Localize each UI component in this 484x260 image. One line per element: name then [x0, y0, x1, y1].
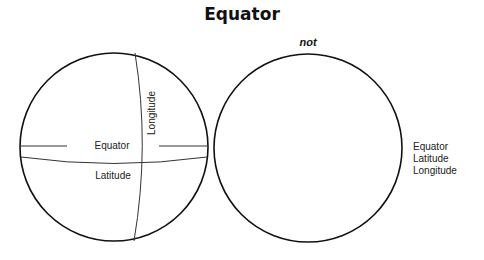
- word-bank-item-longitude: Longitude: [413, 165, 457, 177]
- longitude-label: Longitude: [146, 91, 157, 135]
- latitude-label: Latitude: [95, 170, 131, 181]
- word-bank-item-latitude: Latitude: [413, 153, 457, 165]
- longitude-curve: [134, 53, 142, 241]
- right-globe: [214, 54, 402, 242]
- equator-label: Equator: [94, 140, 130, 151]
- word-bank: Equator Latitude Longitude: [413, 141, 457, 177]
- latitude-curve: [21, 157, 207, 164]
- globes-diagram: Equator Latitude Longitude: [0, 0, 484, 260]
- word-bank-item-equator: Equator: [413, 141, 457, 153]
- not-annotation: not: [290, 36, 326, 48]
- left-globe: Equator Latitude Longitude: [20, 53, 208, 241]
